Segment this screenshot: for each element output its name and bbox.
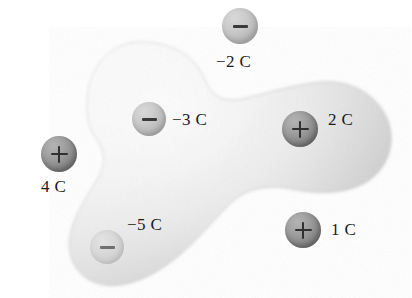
charge-label-plus-2c: 2 C [328,110,353,130]
charge-sphere-minus-3c [132,102,166,136]
charge-sphere-minus-5c [90,230,124,264]
charge-sphere-plus-4c [41,136,77,172]
charge-label-plus-1c: 1 C [331,220,356,240]
physics-figure: −2 C −3 C 2 C 4 C −5 C 1 C [0,0,412,298]
charge-label-plus-4c: 4 C [41,177,66,197]
charge-sphere-plus-2c [282,111,318,147]
charge-sphere-minus-2c [222,8,258,44]
charge-label-minus-5c: −5 C [127,215,162,235]
charge-label-minus-3c: −3 C [172,110,207,130]
charge-sphere-plus-1c [285,212,321,248]
charge-label-minus-2c: −2 C [216,52,251,72]
